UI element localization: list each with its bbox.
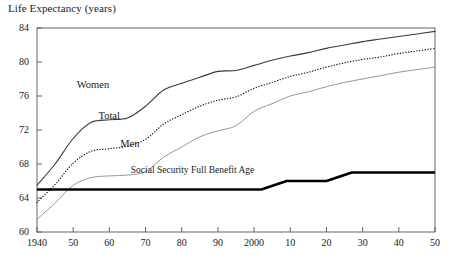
x-tick-label: 1940 (27, 237, 47, 248)
life-expectancy-chart: Life Expectancy (years) 60646872768084 1… (0, 0, 453, 263)
x-axis-tick-labels: 1940506070809020001020304050 (27, 237, 440, 248)
social-security-benefit-age-line (37, 173, 435, 190)
series-label-men: Men (120, 138, 140, 149)
y-axis-ticks (37, 28, 42, 232)
x-tick-label: 90 (213, 237, 223, 248)
x-tick-label: 2000 (244, 237, 264, 248)
y-tick-label: 60 (19, 226, 29, 237)
y-tick-label: 72 (19, 124, 29, 135)
chart-axes (37, 28, 435, 232)
x-tick-label: 10 (285, 237, 295, 248)
x-tick-label: 60 (104, 237, 114, 248)
x-axis-ticks (37, 227, 435, 232)
y-tick-label: 64 (19, 192, 29, 203)
x-tick-label: 20 (321, 237, 331, 248)
x-tick-label: 50 (68, 237, 78, 248)
x-tick-label: 50 (430, 237, 440, 248)
series-line-women (37, 31, 435, 185)
chart-series-labels: WomenTotalMenSocial Security Full Benefi… (77, 79, 255, 175)
chart-series-lines (37, 31, 435, 219)
annotation-label: Social Security Full Benefit Age (131, 165, 254, 175)
y-tick-label: 76 (19, 90, 29, 101)
x-tick-label: 70 (141, 237, 151, 248)
y-axis-tick-labels: 60646872768084 (19, 22, 29, 237)
series-label-women: Women (77, 79, 110, 90)
chart-plot-area: 60646872768084 1940506070809020001020304… (0, 0, 453, 263)
x-tick-label: 40 (394, 237, 404, 248)
y-tick-label: 84 (19, 22, 29, 33)
x-tick-label: 80 (177, 237, 187, 248)
plot-frame (37, 28, 435, 232)
series-label-total: Total (99, 110, 121, 121)
series-line-men (37, 67, 435, 219)
y-tick-label: 80 (19, 56, 29, 67)
annotation-line-path (37, 173, 435, 190)
y-tick-label: 68 (19, 158, 29, 169)
x-tick-label: 30 (358, 237, 368, 248)
